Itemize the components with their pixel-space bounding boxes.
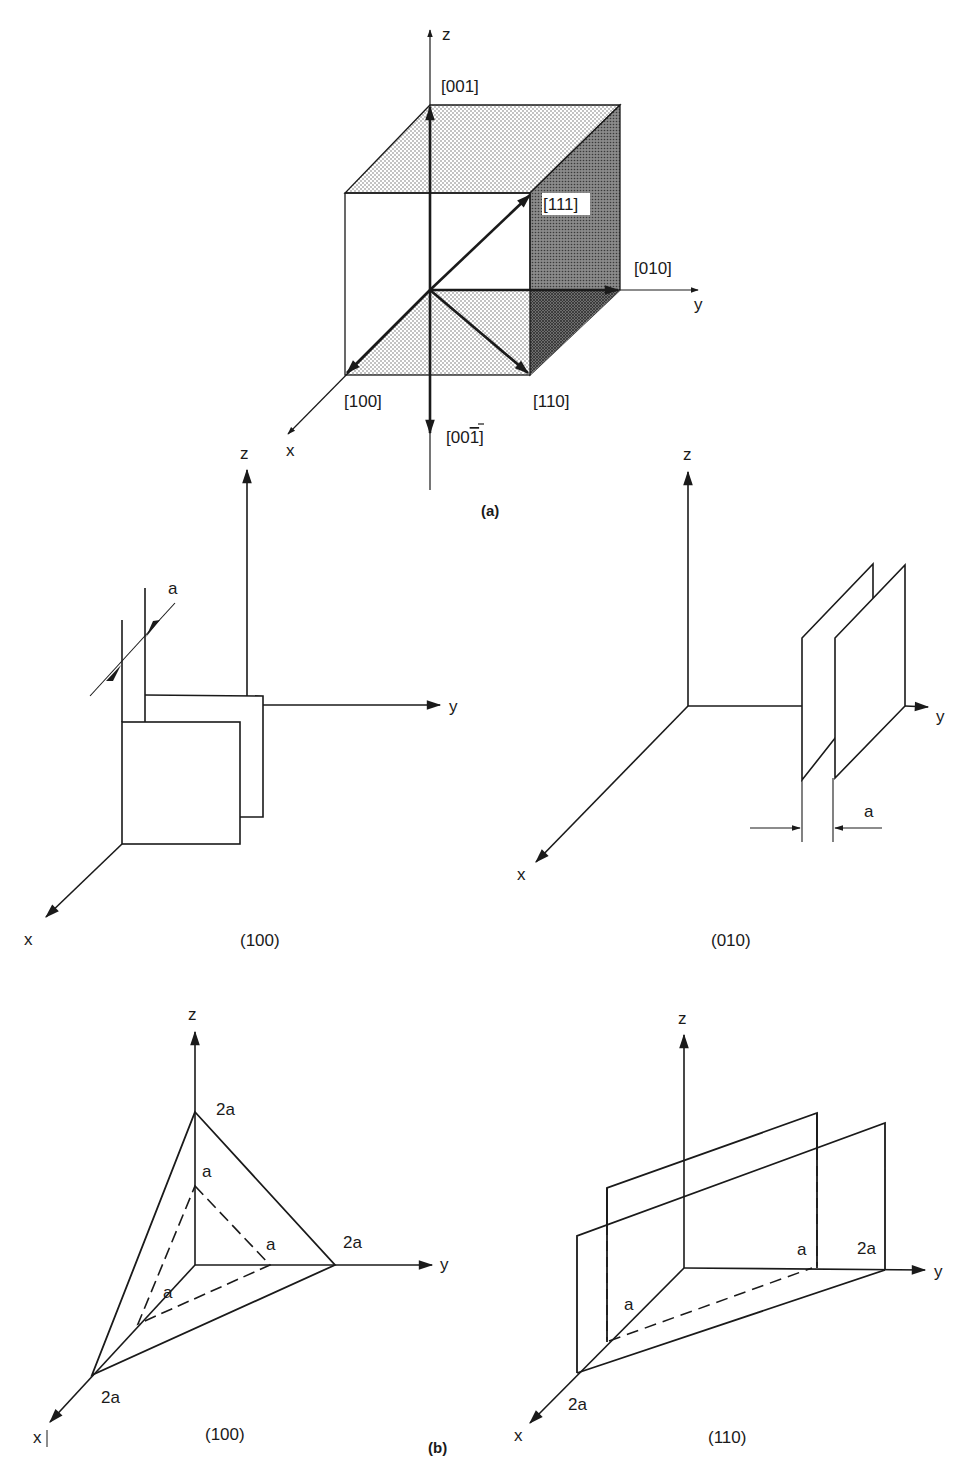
crystal-planes-figure: z y x [001] [111] [010] [100] [110] [001… — [0, 0, 966, 1481]
y-intercept-2a: 2a — [343, 1233, 362, 1252]
spacing-label: a — [864, 802, 874, 821]
panel-b-caption: (b) — [428, 1439, 447, 1456]
panel-a-caption: (a) — [481, 502, 499, 519]
z-axis-label: z — [240, 444, 249, 463]
x-intercept-2a: 2a — [101, 1388, 120, 1407]
x-axis-label: x — [286, 441, 295, 460]
spacing-dimension-line — [90, 603, 175, 696]
y-axis-label: y — [440, 1255, 449, 1274]
x-axis-label: x — [24, 930, 33, 949]
y-axis-label: y — [934, 1262, 943, 1281]
outer-plane-2a-base — [577, 1270, 885, 1373]
x-axis — [536, 706, 688, 862]
cube-bottom-right-shade — [530, 290, 620, 375]
caption-110: (110) — [708, 1428, 746, 1447]
z-axis-label: z — [683, 445, 692, 464]
x-axis-label: x — [514, 1426, 523, 1445]
z-intercept-a: a — [202, 1162, 212, 1181]
y-axis — [684, 1268, 925, 1270]
y-intercept-a: a — [797, 1240, 807, 1259]
direction-110-label: [110] — [533, 392, 570, 411]
z-intercept-2a: 2a — [216, 1100, 235, 1119]
diagram-100-intercept-planes: 2a 2a 2a a a a z y x (100) (b) — [33, 1005, 449, 1456]
front-plane — [122, 722, 240, 844]
diagram-110-planes: a 2a a 2a z y x (110) — [514, 1009, 943, 1447]
x-axis-label: x — [33, 1428, 42, 1447]
x-axis-label: x — [517, 865, 526, 884]
x-intercept-a: a — [624, 1295, 634, 1314]
x-intercept-a: a — [163, 1283, 173, 1302]
y-intercept-a: a — [266, 1235, 276, 1254]
x-axis — [50, 1265, 195, 1422]
diagram-010-parallel-planes: a z y x (010) — [517, 445, 945, 950]
direction-001-label: [001] — [441, 77, 479, 96]
y-axis-label: y — [449, 697, 458, 716]
diagram-100-parallel-planes: a z y x (100) — [24, 444, 458, 950]
outer-plane-2a — [577, 1123, 885, 1373]
y-axis-label: y — [936, 707, 945, 726]
y-intercept-2a: 2a — [857, 1239, 876, 1258]
caption-010: (010) — [711, 931, 751, 950]
x-axis — [46, 844, 122, 917]
direction-100-label: [100] — [344, 392, 382, 411]
z-axis-label: z — [442, 25, 451, 44]
spacing-label: a — [168, 579, 178, 598]
caption-100-intercepts: (100) — [205, 1425, 245, 1444]
direction-111-label: [111] — [543, 195, 578, 214]
vector-111 — [430, 195, 530, 290]
panel-a-cube-diagram: z y x [001] [111] [010] [100] [110] [001… — [286, 25, 703, 519]
x-intercept-2a: 2a — [568, 1395, 587, 1414]
direction-00-1bar-label: [001] — [446, 428, 484, 447]
direction-010-label: [010] — [634, 259, 672, 278]
z-axis-label: z — [188, 1005, 197, 1024]
y-axis-tip — [905, 706, 928, 707]
z-axis-label: z — [678, 1009, 687, 1028]
outer-plane-2a — [92, 1112, 335, 1375]
y-axis-label: y — [694, 295, 703, 314]
caption-100: (100) — [240, 931, 280, 950]
inner-plane-a-top — [607, 1113, 817, 1342]
